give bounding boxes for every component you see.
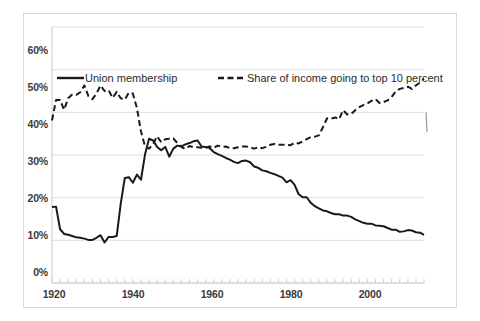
legend-label-income-share: Share of income going to top 10 percent (247, 72, 443, 84)
y-tick-label-40: 40% (8, 118, 48, 130)
stray-tick-mark (426, 112, 427, 132)
y-tick-label-10: 10% (8, 229, 48, 241)
y-tick-label-0: 0% (8, 266, 48, 278)
legend-label-union-membership: Union membership (85, 72, 177, 84)
y-tick-label-30: 30% (8, 155, 48, 167)
gridlines (52, 27, 424, 283)
x-tick-label-2000: 2000 (348, 288, 392, 300)
x-tick-label-1920: 1920 (32, 288, 76, 300)
x-tick-label-1940: 1940 (111, 288, 155, 300)
y-tick-label-20: 20% (8, 192, 48, 204)
series-line-income-share (52, 79, 424, 149)
x-tick-label-1980: 1980 (269, 288, 313, 300)
chart-figure: 60% 50% 40% 30% 20% 10% 0% 1920 1940 196… (0, 0, 480, 321)
x-axis-minor-ticks (52, 279, 424, 283)
chart-plot-area (0, 0, 480, 321)
x-tick-label-1960: 1960 (190, 288, 234, 300)
y-tick-label-50: 50% (8, 81, 48, 93)
data-series-layer (52, 79, 424, 243)
series-line-union-membership (52, 139, 424, 243)
y-tick-label-60: 60% (8, 44, 48, 56)
